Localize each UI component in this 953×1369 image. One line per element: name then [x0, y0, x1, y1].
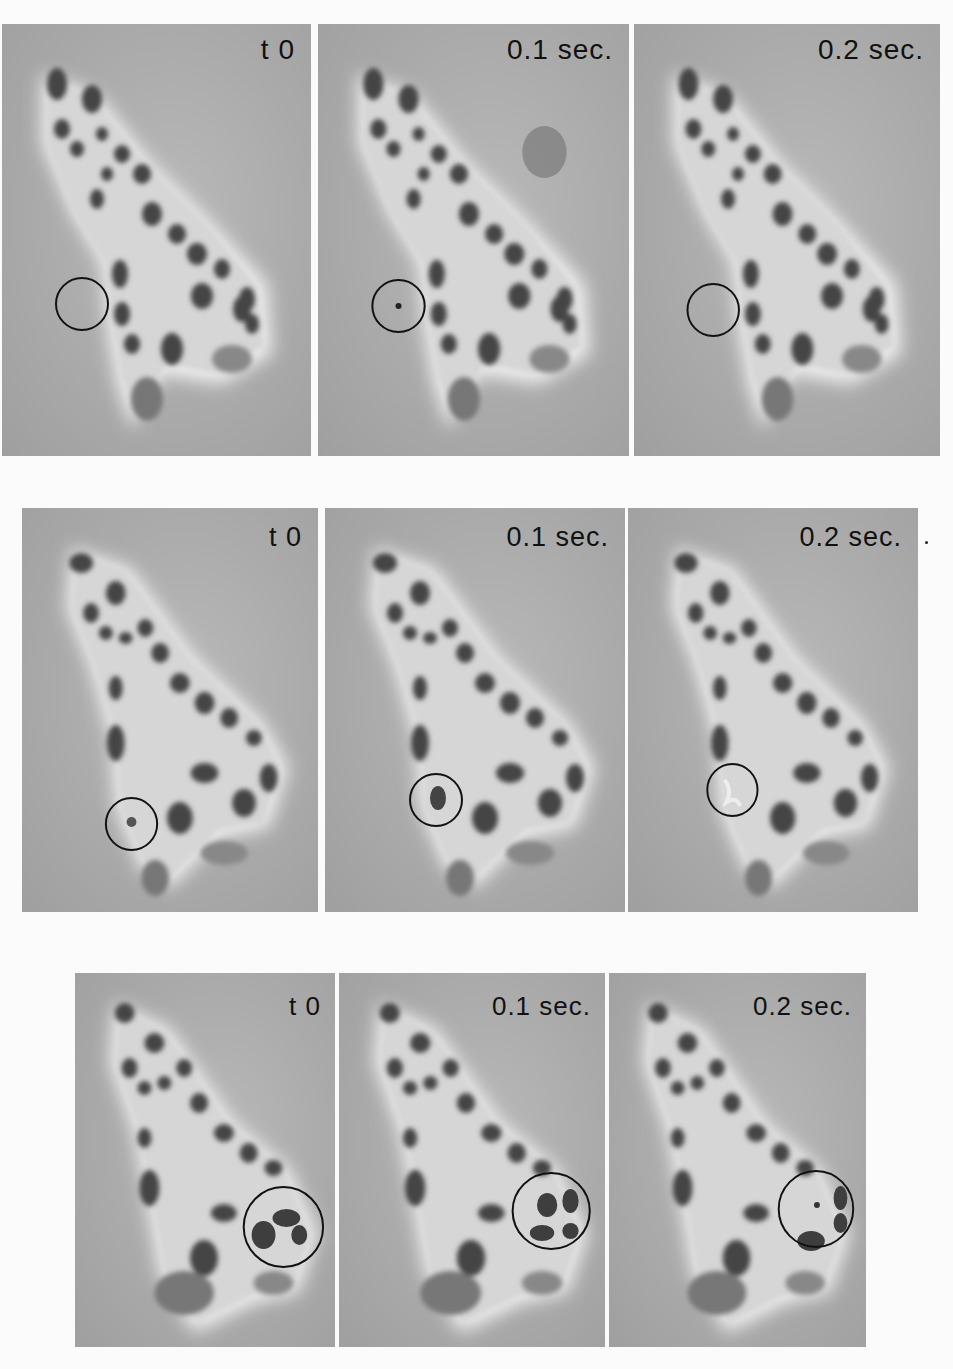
micrograph-panel-r2-0.1s: 0.1 sec.	[325, 508, 625, 912]
timestamp-label: t 0	[261, 34, 295, 66]
micrograph-panel-r1-0.1s: 0.1 sec.	[318, 24, 629, 456]
timestamp-label: 0.1 sec.	[507, 34, 613, 66]
stray-mark	[925, 541, 928, 544]
timestamp-label: 0.2 sec.	[818, 34, 924, 66]
micrograph-panel-r1-t0: t 0	[2, 24, 311, 456]
timestamp-label: 0.2 sec.	[799, 522, 902, 553]
timestamp-label: t 0	[289, 991, 321, 1022]
cell-micrograph-image	[22, 508, 318, 912]
micrograph-panel-r2-t0: t 0	[22, 508, 318, 912]
timestamp-label: 0.1 sec.	[492, 991, 591, 1022]
cell-micrograph-image	[628, 508, 918, 912]
marker-circle	[56, 278, 108, 330]
cell-micrograph-image	[325, 508, 625, 912]
cell-micrograph-image	[75, 973, 335, 1347]
cell-micrograph-image	[634, 24, 940, 456]
cell-micrograph-image	[609, 973, 866, 1347]
timestamp-label: 0.2 sec.	[753, 991, 852, 1022]
micrograph-panel-r1-0.2s: 0.2 sec.	[634, 24, 940, 456]
micrograph-panel-r3-0.1s: 0.1 sec.	[339, 973, 605, 1347]
cell-micrograph-image	[318, 24, 629, 456]
micrograph-panel-r3-0.2s: 0.2 sec.	[609, 973, 866, 1347]
marker-circle	[687, 284, 738, 336]
out-of-focus-blob	[522, 126, 566, 178]
timestamp-label: 0.1 sec.	[506, 522, 609, 553]
micrograph-panel-r3-t0: t 0	[75, 973, 335, 1347]
cell-micrograph-image	[2, 24, 311, 456]
micrograph-panel-r2-0.2s: 0.2 sec.	[628, 508, 918, 912]
timestamp-label: t 0	[269, 522, 302, 553]
cell-micrograph-image	[339, 973, 605, 1347]
